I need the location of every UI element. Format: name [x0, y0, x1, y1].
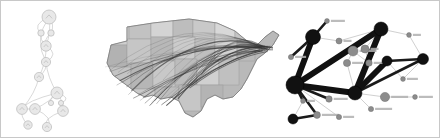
dag-node[interactable]	[48, 100, 53, 105]
network-hub-node[interactable]	[288, 114, 298, 124]
dag-node[interactable]	[58, 100, 63, 105]
network-secondary-node[interactable]	[368, 106, 373, 111]
dag-node[interactable]	[48, 30, 54, 36]
dag-node[interactable]	[34, 72, 43, 81]
network-secondary-node[interactable]	[380, 92, 389, 101]
network-node-label	[331, 20, 345, 22]
network-secondary-node[interactable]	[288, 54, 293, 59]
figure-container	[0, 0, 440, 138]
network-secondary-node[interactable]	[301, 99, 306, 104]
dag-svg	[1, 1, 101, 137]
network-node-label	[352, 62, 363, 64]
network-secondary-node[interactable]	[401, 77, 406, 82]
network-hub-node[interactable]	[306, 30, 321, 45]
network-hub-node[interactable]	[286, 76, 304, 94]
network-secondary-node[interactable]	[336, 114, 341, 119]
network-node-label	[391, 96, 408, 98]
network-svg	[283, 1, 439, 137]
network-secondary-node[interactable]	[361, 45, 369, 53]
network-secondary-node[interactable]	[336, 38, 342, 44]
network-node-label	[407, 78, 418, 80]
network-node-label	[322, 114, 339, 116]
network-node-label	[307, 100, 315, 102]
dag-node[interactable]	[51, 87, 63, 99]
network-secondary-node[interactable]	[325, 19, 330, 24]
network-secondary-node[interactable]	[326, 96, 332, 102]
network-node-label	[334, 98, 348, 100]
network-node-label	[295, 56, 306, 58]
dag-node[interactable]	[17, 104, 28, 115]
dag-node[interactable]	[41, 57, 50, 66]
dag-node[interactable]	[42, 122, 51, 131]
dag-node[interactable]	[30, 104, 41, 115]
map-svg	[97, 1, 287, 137]
network-hub-node[interactable]	[418, 54, 429, 65]
network-node-label	[371, 48, 379, 50]
network-hub-node[interactable]	[348, 86, 362, 100]
panel-network-graph	[283, 1, 439, 137]
network-secondary-node[interactable]	[348, 46, 358, 56]
panel-dag-diagram	[1, 1, 101, 137]
network-node-label	[375, 108, 392, 110]
network-secondary-node[interactable]	[343, 59, 350, 66]
dag-node[interactable]	[41, 41, 51, 51]
dag-node[interactable]	[24, 121, 32, 129]
network-node-label	[419, 96, 433, 98]
network-node-label	[344, 40, 352, 42]
dag-node[interactable]	[58, 106, 69, 117]
network-secondary-node[interactable]	[314, 112, 321, 119]
panel-us-flight-map	[97, 1, 287, 137]
network-secondary-node[interactable]	[407, 33, 412, 38]
network-hub-node[interactable]	[382, 56, 392, 66]
dag-node[interactable]	[38, 30, 44, 36]
network-hub-node[interactable]	[374, 22, 388, 36]
dag-node[interactable]	[42, 10, 56, 24]
network-node-group	[286, 19, 429, 124]
network-secondary-node[interactable]	[366, 60, 372, 66]
network-node-label	[413, 34, 421, 36]
network-node-label	[343, 116, 354, 118]
network-secondary-node[interactable]	[413, 95, 418, 100]
